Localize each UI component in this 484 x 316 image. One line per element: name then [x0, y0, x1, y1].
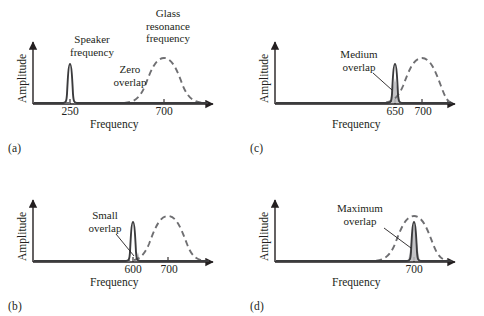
panel-c-plot	[242, 0, 484, 158]
panel-c: Amplitude Frequency 650 700 Medium overl…	[242, 0, 484, 158]
x-tick-label-600: 600	[119, 263, 147, 275]
x-tick-label-700: 700	[150, 105, 178, 117]
x-tick-label-250: 250	[56, 105, 84, 117]
y-axis-title: Amplitude	[258, 54, 270, 103]
glass-resonance-label: Glass resonance frequency	[130, 7, 206, 45]
y-axis-title: Amplitude	[16, 212, 28, 261]
overlap-leader-line	[384, 228, 411, 248]
x-tick-label-650: 650	[381, 105, 409, 117]
x-axis-title: Frequency	[90, 118, 139, 130]
overlap-leader-line	[373, 73, 392, 90]
x-tick-label-700: 700	[155, 263, 183, 275]
y-axis-title: Amplitude	[16, 54, 28, 103]
medium-overlap-label: Medium overlap	[326, 48, 392, 73]
panel-b-plot	[0, 158, 242, 316]
panel-label-b: (b)	[8, 300, 22, 312]
y-axis-title: Amplitude	[258, 212, 270, 261]
x-axis-title: Frequency	[332, 118, 381, 130]
zero-overlap-label: Zero overlap	[102, 63, 158, 88]
x-tick-label-700: 700	[400, 263, 428, 275]
panel-label-d: (d)	[250, 300, 264, 312]
panel-label-c: (c)	[250, 142, 263, 154]
panel-a: Amplitude Frequency 250 700 Speaker freq…	[0, 0, 242, 158]
maximum-overlap-label: Maximum overlap	[322, 202, 398, 227]
x-axis-title: Frequency	[332, 276, 381, 288]
panel-d: Amplitude Frequency 700 Maximum overlap …	[242, 158, 484, 316]
small-overlap-label: Small overlap	[76, 209, 134, 234]
speaker-frequency-label: Speaker frequency	[54, 33, 130, 58]
x-tick-label-700: 700	[409, 105, 437, 117]
panel-b: Amplitude Frequency 600 700 Small overla…	[0, 158, 242, 316]
panel-d-plot	[242, 158, 484, 316]
panel-label-a: (a)	[8, 142, 21, 154]
x-axis-title: Frequency	[90, 276, 139, 288]
figure-resonance-overlap: Amplitude Frequency 250 700 Speaker freq…	[0, 0, 484, 316]
